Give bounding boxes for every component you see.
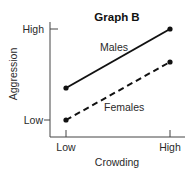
chart-canvas: Graph B High Low Low High Crowding Aggre… [0, 0, 196, 172]
data-point-females-low [63, 117, 68, 122]
y-tick-label-low: Low [24, 114, 44, 126]
series-label-females: Females [104, 101, 144, 113]
x-tick-label-high: High [159, 141, 181, 153]
x-tick-label-low: Low [56, 141, 76, 153]
data-point-males-low [63, 85, 68, 90]
chart-title: Graph B [94, 11, 139, 23]
series-label-males: Males [100, 41, 128, 53]
data-point-males-high [167, 26, 172, 31]
y-tick-label-high: High [22, 23, 44, 35]
data-point-females-high [167, 59, 172, 64]
y-axis-title: Aggression [7, 48, 19, 101]
series-line-males [66, 29, 170, 88]
x-axis-title: Crowding [95, 156, 140, 168]
